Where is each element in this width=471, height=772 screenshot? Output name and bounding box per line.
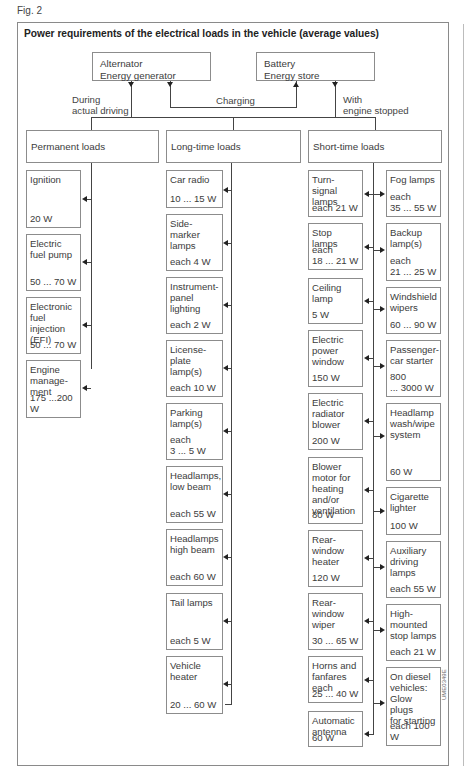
arrow-left-icon [364, 677, 369, 683]
figure-label: Fig. 2 [17, 5, 42, 16]
load-name: Electric radiator blower [312, 397, 359, 430]
load-name: Rear- window heater [312, 534, 359, 567]
figure-code: UME0349E [441, 669, 447, 700]
load-name: Headlamp wash/wipe system [390, 407, 437, 440]
load-headlamps-high-beam: Headlamps high beameach 60 W [166, 529, 223, 586]
load-name: Windshield wipers [390, 291, 437, 313]
load-value: 25 ... 40 W [312, 688, 358, 699]
load-value: 100 W [390, 520, 418, 531]
load-ceiling-lamp: Ceiling lamp5 W [308, 278, 363, 324]
load-blower-motor: Blower motor for heating and/or ventilat… [308, 457, 363, 524]
load-value: 175 ...200 W [30, 392, 80, 414]
load-value: each 21 ... 25 W [390, 255, 436, 277]
arrow-left-icon [223, 365, 228, 371]
arrow-down-icon [167, 82, 173, 87]
arrow-left-icon [223, 554, 228, 560]
arrow-right-icon [380, 306, 385, 312]
arrow-left-icon [364, 618, 369, 624]
arrow-down-icon [332, 82, 338, 87]
load-name: Car radio [170, 174, 219, 185]
load-backup-lamps: Backup lamp(s)each 21 ... 25 W [386, 223, 441, 281]
arrow-right-icon [380, 627, 385, 633]
load-name: License- plate lamp(s) [170, 344, 219, 377]
bus-drop-permanent [91, 117, 92, 130]
load-value: 60 ... 90 W [390, 319, 436, 330]
arrow-left-icon [223, 302, 228, 308]
arrow-right-icon [380, 508, 385, 514]
load-value: 120 W [312, 572, 340, 583]
arrow-left-icon [364, 487, 369, 493]
load-value: 50 ... 70 W [30, 339, 76, 350]
load-value: 60 W [390, 466, 412, 477]
load-name: Passenger- car starter [390, 344, 437, 366]
battery-box: Battery Energy store [256, 52, 375, 81]
load-name: Cigarette lighter [390, 491, 437, 513]
load-name: Ceiling lamp [312, 282, 359, 304]
arrow-left-icon [364, 555, 369, 561]
load-value: each 2 W [170, 319, 211, 330]
category-permanent-loads: Permanent loads [26, 130, 159, 163]
arrow-left-icon [82, 196, 87, 202]
arrow-right-icon [380, 363, 385, 369]
load-value: 20 W [30, 213, 52, 224]
load-headlamp-wash-wipe: Headlamp wash/wipe system60 W [386, 403, 441, 481]
arrow-left-icon [223, 681, 228, 687]
load-value: each 10 W [170, 382, 216, 393]
load-value: each 4 W [170, 256, 211, 267]
load-glow-plugs: On diesel vehicles: Glow plugs for start… [386, 667, 441, 746]
load-value: each 100 W [390, 720, 440, 742]
load-value: each 5 W [170, 635, 211, 646]
load-electric-power-window: Electric power window150 W [308, 330, 363, 387]
arrow-right-icon [380, 433, 385, 439]
arrow-left-icon [364, 355, 369, 361]
arrow-left-icon [223, 428, 228, 434]
category-short-time-loads: Short-time loads [308, 130, 442, 163]
load-value: each 35 ... 55 W [390, 191, 436, 213]
arrow-left-icon [364, 418, 369, 424]
load-license-plate-lamps: License- plate lamp(s)each 10 W [166, 340, 223, 397]
load-value: 30 ... 65 W [312, 635, 358, 646]
load-value: each 18 ... 21 W [312, 244, 358, 266]
load-value: 800 ... 3000 W [390, 371, 434, 393]
load-passenger-car-starter: Passenger- car starter800 ... 3000 W [386, 340, 441, 397]
alternator-box: Alternator Energy generator [92, 52, 211, 81]
load-automatic-antenna: Automatic antenna60 W [308, 711, 363, 747]
load-electric-radiator-blower: Electric radiator blower200 W [308, 393, 363, 450]
arrow-left-icon [223, 187, 228, 193]
load-electric-fuel-pump: Electric fuel pump50 ... 70 W [26, 234, 81, 291]
arrow-left-icon [223, 618, 228, 624]
load-name: Vehicle heater [170, 660, 219, 682]
load-horns-and-fanfares: Horns and fanfares each25 ... 40 W [308, 656, 363, 703]
load-name: Auxiliary driving lamps [390, 545, 437, 578]
arrow-left-icon [223, 491, 228, 497]
category-label: Permanent loads [31, 141, 105, 152]
load-cigarette-lighter: Cigarette lighter100 W [386, 487, 441, 535]
arrow-left-icon [364, 731, 369, 737]
load-name: Backup lamp(s) [390, 227, 437, 249]
arrow-right-icon [380, 191, 385, 197]
arrow-right-icon [380, 700, 385, 706]
load-name: Rear- window wiper [312, 597, 359, 630]
load-name: Parking lamp(s) [170, 407, 219, 429]
long-time-trunk [231, 163, 232, 704]
load-windshield-wipers: Windshield wipers60 ... 90 W [386, 287, 441, 334]
load-value: 10 ... 15 W [170, 193, 216, 204]
load-name: Side-marker lamps [170, 218, 219, 251]
load-name: Ignition [30, 174, 77, 185]
load-instrument-panel-lighting: Instrument- panel lightingeach 2 W [166, 277, 223, 334]
load-value: each 55 W [390, 583, 436, 594]
load-name: On diesel vehicles: Glow plugs for start… [390, 671, 437, 726]
arrow-left-icon [82, 259, 87, 265]
load-name: Fog lamps [390, 174, 437, 185]
arrow-left-icon [223, 240, 228, 246]
load-value: each 21 W [390, 646, 436, 657]
load-value: 150 W [312, 372, 340, 383]
arrow-left-icon [82, 385, 87, 391]
arrow-left-icon [364, 244, 369, 250]
driving-label: During actual driving [72, 94, 129, 116]
load-name: Headlamps, low beam [170, 470, 219, 492]
load-name: Electric power window [312, 334, 359, 367]
arrow-right-icon [380, 247, 385, 253]
load-name: Headlamps high beam [170, 533, 219, 555]
load-name: High- mounted stop lamps [390, 608, 437, 641]
